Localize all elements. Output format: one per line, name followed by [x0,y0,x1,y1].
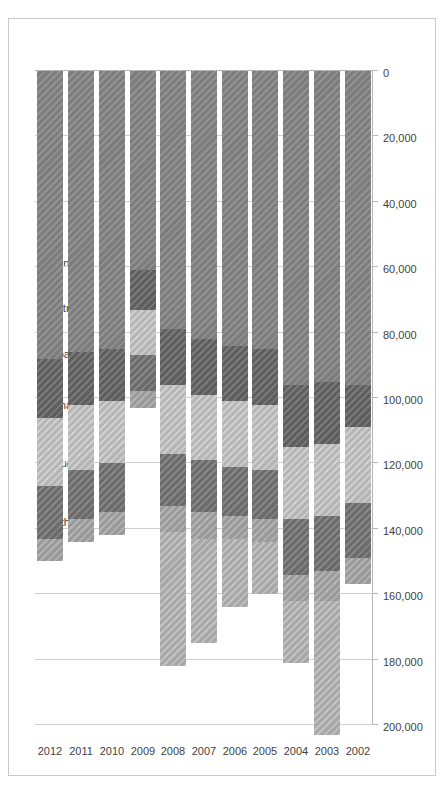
value-axis-label: 200,000 [383,721,423,733]
stacked-bar[interactable] [130,71,156,408]
bar-segment-china[interactable] [252,71,278,349]
bar-segment-austria[interactable] [130,270,156,309]
stacked-bar[interactable] [252,71,278,594]
stacked-bar[interactable] [99,71,125,535]
bar-segment-china[interactable] [283,71,309,385]
value-axis-label: 80,000 [383,329,417,341]
bar-segment-austria[interactable] [37,359,63,418]
bar-segment-allothers[interactable] [314,601,340,735]
bar-segment-portugal[interactable] [314,571,340,600]
value-axis-label: 20,000 [383,132,417,144]
bar-row [314,71,340,725]
bar-segment-germany[interactable] [160,454,186,506]
stacked-bar[interactable] [314,71,340,735]
bar-segment-portugal[interactable] [283,575,309,601]
bar-segment-austria[interactable] [222,346,248,402]
bar-segment-germany[interactable] [68,470,94,519]
bar-segment-austria[interactable] [345,385,371,428]
bar-segment-austria[interactable] [160,329,186,385]
bar-segment-allothers[interactable] [160,532,186,666]
bar-segment-china[interactable] [130,71,156,270]
value-axis-label: 180,000 [383,656,423,668]
bar-segment-china[interactable] [345,71,371,385]
bar-row [191,71,217,725]
bar-segment-portugal[interactable] [37,539,63,562]
bar-segment-japan[interactable] [99,401,125,463]
bar-segment-austria[interactable] [252,349,278,405]
bar-row [222,71,248,725]
value-axis-label: 100,000 [383,394,423,406]
value-axis-label: 120,000 [383,459,423,471]
value-axis-label: 0 [383,67,389,79]
bar-segment-portugal[interactable] [160,506,186,532]
bar-segment-allothers[interactable] [222,539,248,608]
value-axis-label: 160,000 [383,590,423,602]
bar-segment-germany[interactable] [222,467,248,516]
bar-segment-portugal[interactable] [191,512,217,538]
bar-segment-japan[interactable] [314,444,340,516]
bar-segment-austria[interactable] [283,385,309,447]
axis-tick-140000 [373,528,378,529]
bar-row [252,71,278,725]
stacked-bar[interactable] [191,71,217,643]
axis-tick-120000 [373,462,378,463]
bar-segment-germany[interactable] [252,470,278,519]
bar-segment-china[interactable] [99,71,125,349]
bar-segment-china[interactable] [222,71,248,346]
bar-row [68,71,94,725]
bar-segment-japan[interactable] [191,395,217,460]
bar-segment-germany[interactable] [99,463,125,512]
bar-segment-allothers[interactable] [191,539,217,644]
bar-row [99,71,125,725]
stacked-bar[interactable] [160,71,186,666]
bar-segment-germany[interactable] [191,460,217,512]
bar-segment-japan[interactable] [160,385,186,454]
bar-row [130,71,156,725]
bar-segment-japan[interactable] [345,427,371,502]
bar-segment-china[interactable] [160,71,186,329]
stacked-bar[interactable] [283,71,309,663]
bar-segment-china[interactable] [191,71,217,339]
bar-segment-allothers[interactable] [283,601,309,663]
bar-segment-portugal[interactable] [99,512,125,535]
bar-segment-germany[interactable] [314,516,340,572]
bar-row [283,71,309,725]
bar-segment-germany[interactable] [37,486,63,538]
stacked-bar[interactable] [222,71,248,607]
bar-segment-germany[interactable] [345,503,371,559]
bar-segment-portugal[interactable] [252,519,278,542]
bar-segment-japan[interactable] [283,447,309,519]
stacked-bar[interactable] [37,71,63,562]
bar-segment-china[interactable] [68,71,94,352]
bar-segment-portugal[interactable] [345,558,371,584]
bar-segment-japan[interactable] [37,418,63,487]
bar-segment-austria[interactable] [191,339,217,395]
bar-segment-china[interactable] [314,71,340,382]
chart-rotor: All OthersPortugalGermanyJapanAustriaChi… [9,19,435,775]
bar-segment-portugal[interactable] [130,391,156,407]
axis-tick-0 [373,70,378,71]
bar-segment-allothers[interactable] [252,542,278,594]
axis-tick-160000 [373,593,378,594]
bar-segment-japan[interactable] [130,310,156,356]
value-axis-label: 60,000 [383,263,417,275]
bar-segment-portugal[interactable] [68,519,94,542]
bar-row [37,71,63,725]
bar-segment-japan[interactable] [252,405,278,470]
bar-segment-germany[interactable] [130,355,156,391]
bar-segment-china[interactable] [37,71,63,359]
axis-tick-100000 [373,397,378,398]
stacked-bar[interactable] [68,71,94,542]
bar-segment-portugal[interactable] [222,516,248,539]
bar-segment-austria[interactable] [68,352,94,404]
bar-segment-japan[interactable] [222,401,248,466]
bar-segment-japan[interactable] [68,405,94,470]
bar-segment-germany[interactable] [283,519,309,575]
bar-segment-austria[interactable] [314,382,340,444]
bar-segment-austria[interactable] [99,349,125,401]
category-label-2002: 2002 [336,744,380,758]
axis-tick-80000 [373,332,378,333]
stacked-bar[interactable] [345,71,371,584]
axis-tick-60000 [373,266,378,267]
axis-tick-40000 [373,201,378,202]
